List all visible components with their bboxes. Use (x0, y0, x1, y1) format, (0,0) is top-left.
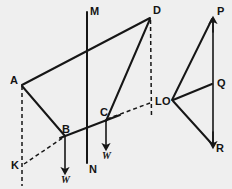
label-M: M (90, 5, 99, 17)
label-A: A (10, 74, 18, 86)
label-N: N (89, 163, 97, 175)
figure-canvas: A B C D K L M N O P Q R W W (0, 0, 232, 189)
construction-line-K-B (24, 137, 64, 164)
label-O: O (162, 95, 171, 107)
label-weight-left: W (61, 174, 71, 185)
label-L: L (155, 95, 162, 107)
label-Q: Q (217, 77, 226, 89)
label-R: R (216, 142, 224, 154)
label-C: C (100, 106, 108, 118)
label-P: P (217, 5, 224, 17)
segment-O-R (173, 101, 211, 143)
label-D: D (153, 4, 161, 16)
construction-line-D-L (151, 20, 152, 118)
segment-A-B (22, 86, 65, 136)
label-weight-right: W (102, 150, 112, 161)
label-B: B (62, 123, 70, 135)
label-K: K (11, 159, 19, 171)
segment-O-P (172, 19, 212, 100)
geometry-figure: A B C D K L M N O P Q R W W (0, 0, 232, 189)
